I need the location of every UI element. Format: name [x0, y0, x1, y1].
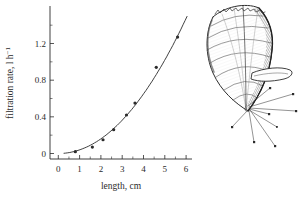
mussel-shell	[207, 5, 272, 111]
mussel-illustration	[0, 0, 300, 207]
figure-canvas: 012345600.40.81.2 length, cm filtration …	[0, 0, 300, 207]
